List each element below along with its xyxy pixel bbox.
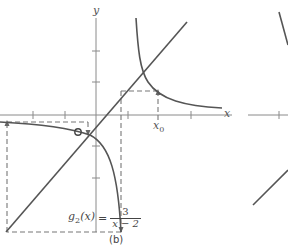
formula-denominator: x − 2 — [110, 218, 141, 230]
formula-argument: (x) — [80, 210, 95, 223]
plot-canvas — [0, 0, 288, 252]
right-panel-curve — [279, 12, 288, 45]
panel-label: (b) — [109, 234, 123, 245]
formula-equals: = — [98, 212, 107, 225]
fixed-point-iteration-figure: y x x0 g2(x) = 3 x − 2 (b) — [0, 0, 288, 252]
right-panel-partial — [248, 12, 288, 205]
formula-g: g — [68, 210, 75, 223]
formula-function-name: g2(x) — [68, 210, 95, 225]
x0-label: x0 — [153, 120, 164, 134]
right-panel-line — [253, 170, 288, 205]
x0-subscript: 0 — [159, 125, 164, 134]
formula-fraction: 3 x − 2 — [110, 207, 141, 229]
formula-numerator: 3 — [120, 207, 130, 218]
x-axis-label: x — [224, 108, 230, 119]
g2-formula: g2(x) = 3 x − 2 — [68, 207, 141, 229]
y-axis-label: y — [93, 5, 99, 16]
